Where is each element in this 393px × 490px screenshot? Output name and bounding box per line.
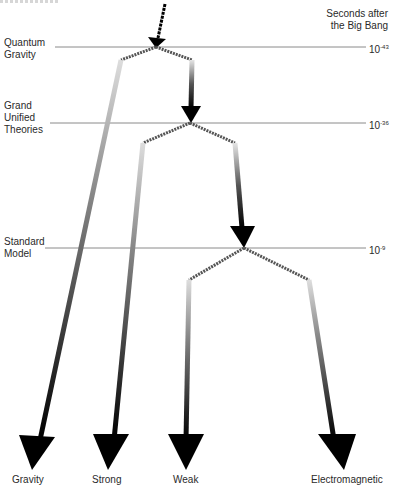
time-label-quantum-gravity: 10-43 xyxy=(369,41,389,56)
force-label-gravity: Gravity xyxy=(12,474,44,486)
era-label-gut: GrandUnifiedTheories xyxy=(4,100,43,136)
weak-branch xyxy=(168,248,244,470)
era-label-standard-model: StandardModel xyxy=(4,236,45,260)
gut-branch xyxy=(156,47,201,123)
time-axis-title-line2: the Big Bang xyxy=(326,20,388,32)
time-label-standard-model: 10-9 xyxy=(369,242,385,257)
strong-branch xyxy=(93,123,190,470)
force-label-electromagnetic: Electromagnetic xyxy=(311,474,383,486)
electroweak-branch xyxy=(190,123,255,248)
force-label-strong: Strong xyxy=(92,474,121,486)
time-axis-title: Seconds after the Big Bang xyxy=(326,8,388,32)
era-label-quantum-gravity: QuantumGravity xyxy=(4,37,45,61)
electromagnetic-branch xyxy=(244,248,356,470)
origin-arrow xyxy=(148,4,166,48)
force-label-weak: Weak xyxy=(173,474,198,486)
force-unification-diagram xyxy=(0,0,393,490)
time-label-gut: 10-36 xyxy=(369,117,389,132)
time-axis-title-line1: Seconds after xyxy=(326,8,388,20)
